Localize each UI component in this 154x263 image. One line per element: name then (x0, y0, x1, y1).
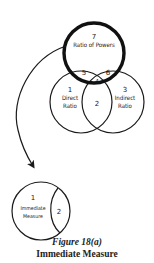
figure-subtitle: Immediate Measure (0, 249, 154, 259)
curved-arrow (16, 46, 66, 166)
indirect-ratio-number: 3 (123, 86, 127, 94)
region-2: 2 (95, 100, 99, 108)
indirect-ratio-label-1: Indirect (115, 94, 135, 101)
ratio-of-powers-number: 7 (92, 33, 96, 41)
region-5: 5 (82, 69, 86, 77)
immediate-measure-circle (12, 182, 70, 240)
region-4: 4 (95, 78, 99, 84)
direct-ratio-label-2: Ratio (63, 102, 78, 109)
immediate-region-2: 2 (57, 208, 61, 216)
figure-title: Figure 18(a) (0, 237, 154, 247)
indirect-ratio-label-2: Ratio (118, 102, 133, 109)
immediate-measure-label-1: Immediate (20, 205, 45, 211)
immediate-measure-label-2: Measure (23, 213, 43, 219)
ratio-of-powers-label: Ratio of Powers (73, 41, 115, 48)
direct-ratio-number: 1 (68, 86, 72, 94)
region-6: 6 (106, 69, 111, 77)
venn-diagram: 7 Ratio of Powers 5 6 4 1 Direct Ratio 2… (0, 0, 154, 263)
direct-ratio-label-1: Direct (62, 94, 78, 101)
immediate-measure-number: 1 (31, 194, 35, 202)
